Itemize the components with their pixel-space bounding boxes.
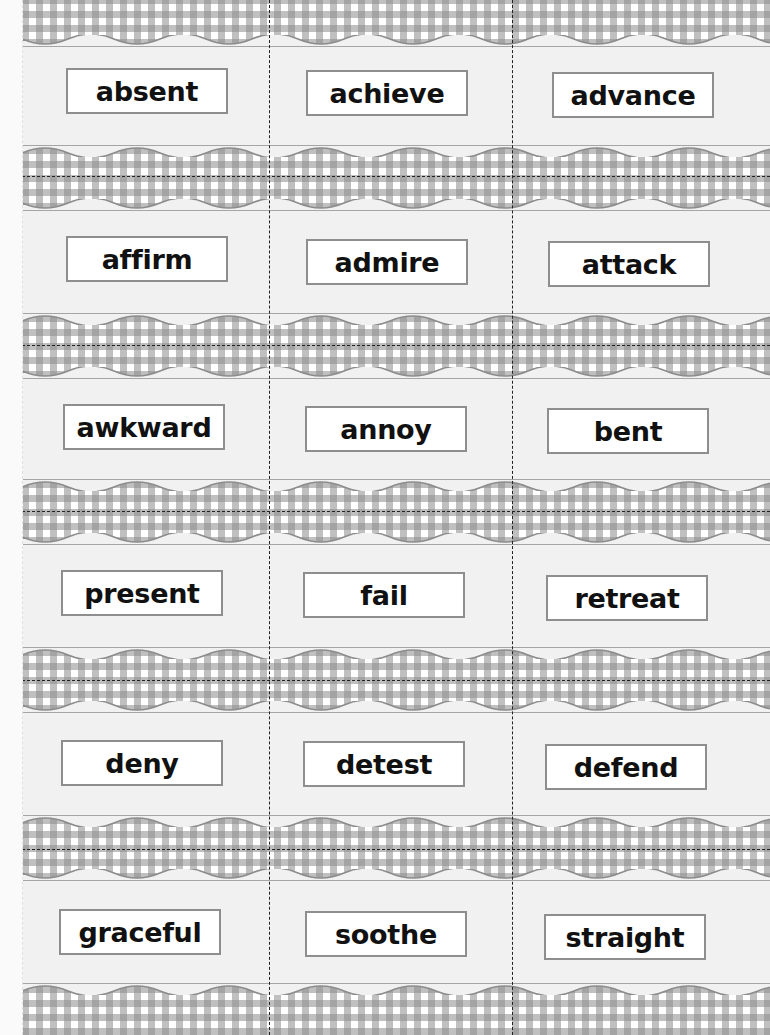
wavy-edge bbox=[22, 479, 770, 491]
wavy-edge bbox=[22, 145, 770, 157]
word-card[interactable]: affirm bbox=[66, 236, 228, 282]
wavy-edge bbox=[22, 815, 770, 827]
word-card[interactable]: defend bbox=[545, 744, 707, 790]
gingham-band-top bbox=[22, 0, 770, 46]
word-card[interactable]: retreat bbox=[546, 575, 708, 621]
gingham-band-1 bbox=[22, 146, 770, 210]
word-card[interactable]: soothe bbox=[305, 911, 467, 957]
word-card[interactable]: awkward bbox=[63, 404, 225, 450]
word-card[interactable]: admire bbox=[306, 239, 468, 285]
wavy-edge bbox=[22, 983, 770, 995]
word-card[interactable]: advance bbox=[552, 72, 714, 118]
word-card[interactable]: deny bbox=[61, 740, 223, 786]
wavy-edge bbox=[22, 199, 770, 211]
wavy-edge bbox=[22, 35, 770, 47]
word-card[interactable]: fail bbox=[303, 572, 465, 618]
gingham-band-5 bbox=[22, 816, 770, 880]
wavy-edge bbox=[22, 647, 770, 659]
horizontal-cut-line bbox=[22, 176, 770, 177]
gingham-band-2 bbox=[22, 314, 770, 378]
gingham-band-bottom bbox=[22, 984, 770, 1035]
vertical-cut-line bbox=[512, 0, 513, 1035]
vertical-cut-line bbox=[269, 0, 270, 1035]
wavy-edge bbox=[22, 869, 770, 881]
word-card[interactable]: straight bbox=[544, 914, 706, 960]
word-card[interactable]: attack bbox=[548, 241, 710, 287]
word-card[interactable]: graceful bbox=[59, 909, 221, 955]
word-card[interactable]: present bbox=[61, 570, 223, 616]
horizontal-cut-line bbox=[22, 680, 770, 681]
horizontal-cut-line bbox=[22, 511, 770, 512]
word-card[interactable]: absent bbox=[66, 68, 228, 114]
wavy-edge bbox=[22, 701, 770, 713]
wavy-edge bbox=[22, 313, 770, 325]
word-card[interactable]: achieve bbox=[306, 70, 468, 116]
word-card[interactable]: bent bbox=[547, 408, 709, 454]
horizontal-cut-line bbox=[22, 849, 770, 850]
word-card[interactable]: annoy bbox=[305, 406, 467, 452]
horizontal-cut-line bbox=[22, 345, 770, 346]
wavy-edge bbox=[22, 367, 770, 379]
word-card[interactable]: detest bbox=[303, 741, 465, 787]
margin-strip bbox=[0, 0, 23, 1035]
wavy-edge bbox=[22, 533, 770, 545]
gingham-band-3 bbox=[22, 480, 770, 544]
